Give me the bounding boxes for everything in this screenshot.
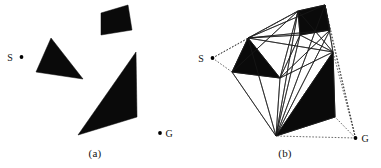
goal-point-label: G <box>361 133 368 144</box>
panel-b-svg: S G <box>190 0 380 150</box>
visibility-edge-top-t2-r3 <box>232 72 276 136</box>
start-point-label: S <box>7 52 13 63</box>
goal-point-label: G <box>165 128 172 139</box>
quad-obstacle-top <box>101 5 132 35</box>
start-point-dot <box>211 56 215 60</box>
dashed-edge-G-r3 <box>276 136 356 138</box>
dashed-edge-S-t2 <box>213 58 233 72</box>
start-point-label: S <box>198 53 204 64</box>
figure-root: S G (a) S G (b) <box>0 0 381 168</box>
panel-a-svg: S G <box>0 0 190 150</box>
panel-b-visibility-graph: S G (b) <box>190 0 380 168</box>
panel-a-caption: (a) <box>0 147 190 159</box>
triangle-obstacle-large <box>78 52 137 135</box>
triangle-obstacle-left <box>232 38 280 78</box>
panel-a-obstacle-field: S G (a) <box>0 0 190 168</box>
triangle-obstacle-left <box>36 38 83 79</box>
visibility-edge-top-r3-t1 <box>248 38 276 136</box>
goal-point-dot <box>158 131 162 135</box>
panel-b-caption: (b) <box>190 147 380 159</box>
start-point-dot <box>20 55 24 59</box>
goal-point-dot <box>354 136 358 140</box>
dashed-edge-G-r1 <box>333 52 356 138</box>
